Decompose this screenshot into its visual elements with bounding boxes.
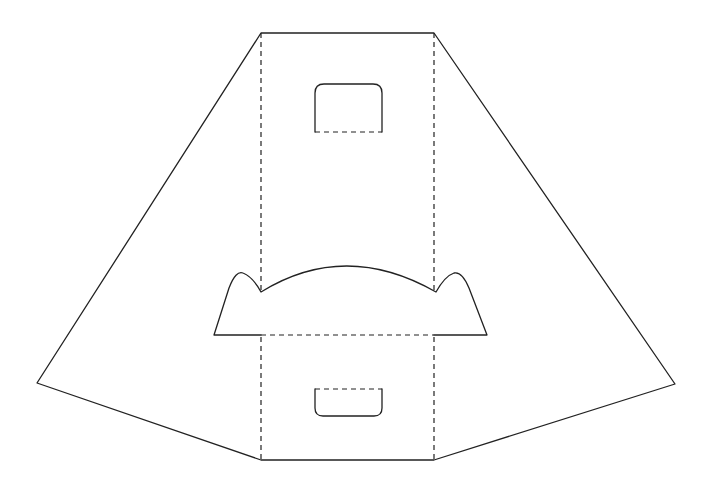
box-outline [37,33,675,460]
packaging-die-cut-diagram [0,0,709,494]
top-window-cutout [315,84,382,132]
handle-tab [214,266,487,335]
bottom-window-cutout [315,389,382,416]
